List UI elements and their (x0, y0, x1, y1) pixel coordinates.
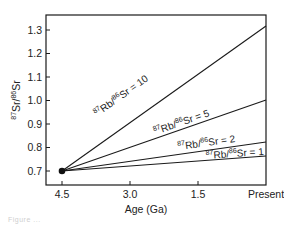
y-tick-labels: 0.7 0.8 0.9 1.0 1.1 1.2 1.3 (27, 24, 42, 177)
y-tick-label: 0.7 (27, 165, 42, 177)
x-tick-labels: 4.5 3.0 1.5 Present (55, 188, 284, 200)
x-axis (62, 181, 198, 185)
x-tick-label: 3.0 (123, 188, 138, 200)
series-label-rb-sr-10: 87Rb/86Sr = 10 (91, 72, 150, 119)
y-tick-label: 1.1 (27, 71, 42, 83)
x-axis-title: Age (Ga) (125, 203, 168, 215)
x-tick-label: 4.5 (55, 188, 70, 200)
y-tick-label: 1.3 (27, 24, 42, 36)
x-tick-label: Present (248, 188, 284, 200)
y-tick-label: 1.0 (27, 94, 42, 106)
figure-caption: Figure ... (8, 216, 41, 223)
rb-sr-evolution-chart: 0.7 0.8 0.9 1.0 1.1 1.2 1.3 87Sr/86Sr 4.… (0, 0, 284, 225)
y-tick-label: 0.8 (27, 141, 42, 153)
series-line-rb-sr-1 (62, 156, 266, 171)
x-tick-label: 1.5 (191, 188, 206, 200)
origin-point (59, 168, 66, 175)
y-axis-title: 87Sr/86Sr (10, 80, 22, 120)
series-label-rb-sr-5: 87Rb/86Sr = 5 (152, 106, 211, 137)
y-tick-label: 0.9 (27, 118, 42, 130)
y-tick-label: 1.2 (27, 47, 42, 59)
